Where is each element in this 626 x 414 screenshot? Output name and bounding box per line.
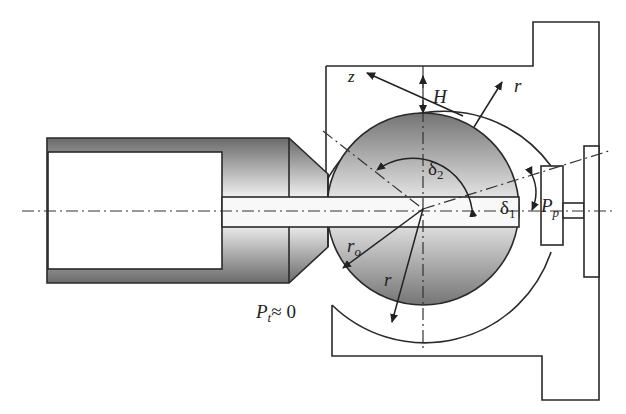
central-bore: [222, 197, 519, 227]
diagram-canvas: z H r δ2 δ1 Pp ro r Pt≈ 0: [0, 0, 626, 414]
label-H: H: [432, 86, 448, 107]
label-r-top: r: [514, 75, 522, 96]
label-r-bottom: r: [384, 269, 392, 290]
label-Pt: Pt≈ 0: [255, 301, 296, 325]
label-z: z: [347, 67, 355, 86]
